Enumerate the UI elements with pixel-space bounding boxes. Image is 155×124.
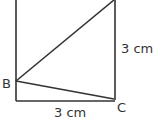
point-label-c: C [117,100,126,115]
right-measurement: 3 cm [121,41,153,56]
diagonal-segment [16,0,114,81]
bottom-measurement: 3 cm [54,105,86,120]
geometry-figure: B C 3 cm 3 cm [0,0,155,124]
point-label-b: B [2,76,11,91]
segment-bc [16,81,114,99]
